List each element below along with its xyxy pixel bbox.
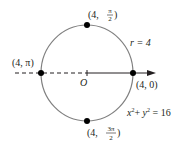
point-4-3pi-over-2: [84, 118, 90, 124]
paren-close: ): [114, 9, 117, 21]
label-4-0: (4, 0): [136, 79, 158, 91]
frac-num: π: [108, 7, 112, 15]
label-4-3pi-over-2: (4,: [87, 127, 98, 139]
equation-cartesian: x2+ y2 = 16: [126, 107, 171, 118]
frac-num: 3π: [107, 125, 115, 133]
point-4-pi: [38, 70, 44, 76]
point-4-0: [130, 70, 136, 76]
frac-den: 2: [108, 15, 112, 23]
label-4-pi: (4, π): [12, 57, 34, 69]
label-4-pi-over-2: (4,: [88, 9, 99, 21]
point-4-pi-over-2: [84, 22, 90, 28]
frac-den: 2: [109, 134, 113, 142]
arrowhead-icon: [147, 70, 156, 76]
origin-label: O: [80, 77, 87, 88]
equation-polar: r = 4: [130, 37, 151, 48]
paren-close: ): [117, 127, 120, 139]
polar-diagram: (4, π 2 ) (4, π) O (4, 0) r = 4 x2+ y2 =…: [0, 0, 192, 150]
